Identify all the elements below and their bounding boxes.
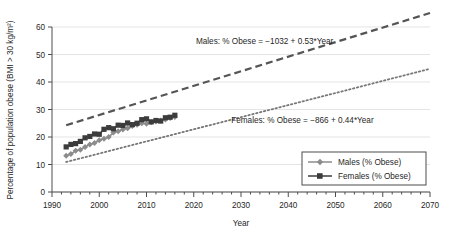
x-tick-label-2030: 2030 bbox=[232, 201, 251, 210]
data-point bbox=[125, 120, 130, 125]
males-equation: Males: % Obese = −1032 + 0.53*Year bbox=[196, 37, 334, 46]
females-equation: Females: % Obese = −866 + 0.44*Year bbox=[231, 116, 374, 125]
data-point bbox=[73, 141, 78, 146]
data-point bbox=[130, 122, 135, 127]
y-tick-label-60: 60 bbox=[36, 23, 46, 32]
data-point bbox=[106, 125, 111, 130]
data-point bbox=[168, 115, 173, 120]
data-point bbox=[153, 118, 158, 123]
data-point bbox=[139, 117, 144, 122]
data-point bbox=[163, 115, 168, 120]
legend-label: Males (% Obese) bbox=[338, 158, 402, 167]
data-point bbox=[120, 123, 125, 128]
x-tick-label-1990: 1990 bbox=[43, 201, 62, 210]
data-point bbox=[78, 139, 83, 144]
y-axis-title: Percentage of population obese (BMI > 30… bbox=[6, 20, 15, 199]
data-point bbox=[64, 144, 69, 149]
y-tick-label-40: 40 bbox=[36, 78, 46, 87]
chart-container: 0102030405060199020002010202020302040205… bbox=[0, 0, 449, 245]
data-point bbox=[101, 127, 106, 132]
x-tick-label-2040: 2040 bbox=[279, 201, 298, 210]
data-point bbox=[82, 135, 87, 140]
square-marker-icon bbox=[317, 173, 323, 179]
data-point bbox=[92, 131, 97, 136]
chart-legend[interactable]: Males (% Obese)Females (% Obese) bbox=[302, 152, 426, 185]
y-tick-label-30: 30 bbox=[36, 106, 46, 115]
y-tick-label-20: 20 bbox=[36, 133, 46, 142]
data-point bbox=[158, 118, 163, 123]
x-axis-title: Year bbox=[233, 219, 250, 228]
data-point bbox=[172, 113, 177, 118]
data-point bbox=[111, 126, 116, 131]
x-tick-label-2020: 2020 bbox=[185, 201, 204, 210]
data-point bbox=[68, 142, 73, 147]
data-point bbox=[97, 132, 102, 137]
y-tick-label-50: 50 bbox=[36, 51, 46, 60]
data-point bbox=[116, 123, 121, 128]
x-tick-label-2050: 2050 bbox=[326, 201, 345, 210]
obesity-trend-chart: 0102030405060199020002010202020302040205… bbox=[0, 0, 449, 245]
x-tick-label-2070: 2070 bbox=[421, 201, 440, 210]
x-tick-label-2060: 2060 bbox=[374, 201, 393, 210]
data-point bbox=[149, 119, 154, 124]
x-tick-label-2010: 2010 bbox=[137, 201, 156, 210]
data-point bbox=[134, 121, 139, 126]
data-point bbox=[87, 134, 92, 139]
legend-label: Females (% Obese) bbox=[338, 172, 411, 181]
data-point bbox=[144, 116, 149, 121]
x-tick-label-2000: 2000 bbox=[90, 201, 109, 210]
y-tick-label-10: 10 bbox=[36, 161, 46, 170]
y-tick-label-0: 0 bbox=[40, 188, 45, 197]
